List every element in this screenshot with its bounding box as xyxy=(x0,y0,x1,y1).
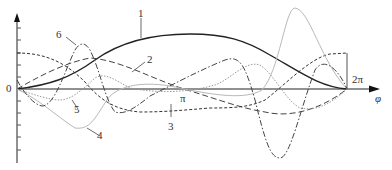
diagram: 1 2 3 4 5 6 0 π 2π φ xyxy=(0,0,392,170)
curve-label-2: 2 xyxy=(147,53,153,65)
curve-label-3: 3 xyxy=(168,120,174,132)
curve-1 xyxy=(17,34,347,89)
curve-label-4: 4 xyxy=(97,129,103,141)
curve-label-1: 1 xyxy=(138,7,144,19)
x-axis-label: φ xyxy=(375,92,381,104)
curve-label-5: 5 xyxy=(74,103,80,115)
leader-lines xyxy=(66,18,171,136)
pi-label: π xyxy=(180,92,186,104)
origin-label: 0 xyxy=(6,82,12,94)
two-pi-label: 2π xyxy=(352,73,364,85)
curve-label-6: 6 xyxy=(56,28,62,40)
